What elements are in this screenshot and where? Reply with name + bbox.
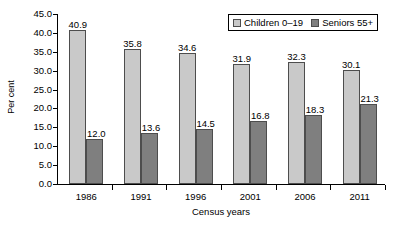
bar[interactable]: 16.8	[250, 121, 267, 184]
x-axis-tick-mark	[221, 185, 222, 190]
y-axis-tick-mark	[53, 146, 58, 147]
bar-value-label: 31.9	[233, 53, 252, 64]
x-axis-tick-labels: 198619911996200120062011	[57, 191, 385, 205]
bar-group: 35.813.6	[124, 14, 158, 184]
y-axis-tick-mark	[53, 127, 58, 128]
y-axis-tick-label: 10.0	[24, 141, 52, 151]
bar-group: 32.318.3	[288, 14, 322, 184]
y-axis-tick-mark	[53, 184, 58, 185]
legend-label: Seniors 55+	[322, 17, 373, 28]
y-axis-tick-labels: 45.040.035.030.025.020.015.010.05.00.0	[20, 0, 52, 226]
bar-value-label: 14.5	[196, 118, 215, 129]
y-axis-tick-label: 0.0	[24, 179, 52, 189]
x-axis-tick-label: 1986	[63, 191, 109, 202]
x-axis-tick-label: 1996	[173, 191, 219, 202]
bar[interactable]: 35.8	[124, 49, 141, 184]
x-axis-tick-mark	[330, 185, 331, 190]
bar-value-label: 21.3	[360, 93, 379, 104]
bar[interactable]: 21.3	[360, 104, 377, 184]
x-axis-tick-mark	[112, 185, 113, 190]
x-axis-tick-mark	[276, 185, 277, 190]
bar[interactable]: 40.9	[69, 30, 86, 185]
legend-label: Children 0–19	[244, 17, 303, 28]
x-axis-tick-label: 2006	[282, 191, 328, 202]
y-axis-tick-label: 35.0	[24, 47, 52, 57]
y-axis-tick-mark	[53, 165, 58, 166]
y-axis-tick-label: 20.0	[24, 103, 52, 113]
bar-value-label: 35.8	[123, 38, 142, 49]
bar-group: 40.912.0	[69, 14, 103, 184]
bar-value-label: 32.3	[287, 51, 306, 62]
y-axis-tick-label: 15.0	[24, 122, 52, 132]
y-axis-tick-label: 40.0	[24, 28, 52, 38]
y-axis-tick-mark	[53, 52, 58, 53]
bar[interactable]: 34.6	[179, 53, 196, 184]
bar-value-label: 18.3	[306, 104, 325, 115]
plot-area: 40.912.035.813.634.614.531.916.832.318.3…	[57, 14, 385, 184]
y-axis-tick-label: 25.0	[24, 85, 52, 95]
x-axis-title: Census years	[57, 206, 385, 217]
bar[interactable]: 12.0	[86, 139, 103, 184]
x-axis-tick-label: 2001	[227, 191, 273, 202]
bar-chart: Per cent 45.040.035.030.025.020.015.010.…	[0, 0, 402, 226]
chart-legend: Children 0–19Seniors 55+	[228, 14, 378, 31]
bar-value-label: 34.6	[178, 42, 197, 53]
bar-value-label: 16.8	[251, 110, 270, 121]
x-axis-tick-label: 2011	[337, 191, 383, 202]
x-axis-tick-mark	[385, 185, 386, 190]
bar[interactable]: 13.6	[141, 133, 158, 184]
bar-value-label: 40.9	[69, 19, 88, 30]
bar[interactable]: 18.3	[305, 115, 322, 184]
y-axis-tick-mark	[53, 14, 58, 15]
x-axis-tick-label: 1991	[118, 191, 164, 202]
y-axis-tick-label: 30.0	[24, 66, 52, 76]
bar[interactable]: 14.5	[196, 129, 213, 184]
bar-value-label: 30.1	[342, 59, 361, 70]
bar[interactable]: 31.9	[233, 64, 250, 185]
legend-swatch-icon	[311, 19, 319, 27]
y-axis-tick-mark	[53, 33, 58, 34]
bar[interactable]: 30.1	[343, 70, 360, 184]
legend-entry[interactable]: Children 0–19	[233, 17, 303, 28]
bar-group: 34.614.5	[179, 14, 213, 184]
bar-value-label: 13.6	[142, 122, 161, 133]
y-axis-tick-mark	[53, 108, 58, 109]
bar[interactable]: 32.3	[288, 62, 305, 184]
y-axis-tick-label: 5.0	[24, 160, 52, 170]
bar-group: 31.916.8	[233, 14, 267, 184]
legend-swatch-icon	[233, 19, 241, 27]
x-axis-tick-mark	[166, 185, 167, 190]
y-axis-title: Per cent	[6, 67, 16, 127]
y-axis-tick-mark	[53, 71, 58, 72]
bar-group: 30.121.3	[343, 14, 377, 184]
bar-value-label: 12.0	[87, 128, 105, 139]
legend-entry[interactable]: Seniors 55+	[311, 17, 373, 28]
y-axis-tick-label: 45.0	[24, 9, 52, 19]
y-axis-tick-mark	[53, 90, 58, 91]
